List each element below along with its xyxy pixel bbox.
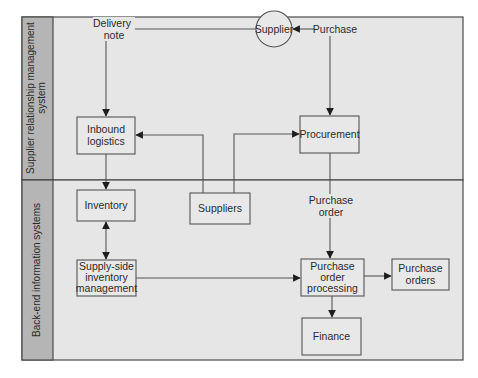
node-purchase-orders[interactable]: Purchase orders bbox=[392, 259, 449, 290]
node-inbound-logistics[interactable]: Inbound logistics bbox=[77, 117, 135, 154]
node-finance[interactable]: Finance bbox=[302, 318, 361, 355]
node-label-line2: logistics bbox=[87, 135, 124, 147]
purchase-order-label-line2: order bbox=[319, 206, 344, 218]
purchase-label: Purchase bbox=[313, 23, 358, 35]
lane-label-line1: Supplier relationship management bbox=[25, 22, 36, 174]
node-label: Suppliers bbox=[198, 202, 242, 214]
process-diagram: Supplier relationship management system … bbox=[0, 0, 478, 378]
delivery-note-label-line2: note bbox=[104, 29, 125, 41]
lane-background bbox=[22, 17, 463, 180]
node-label-line3: management bbox=[76, 282, 137, 294]
swimlane-supplier-relationship: Supplier relationship management system bbox=[22, 17, 463, 180]
lane-label: Back-end information systems bbox=[31, 203, 42, 337]
lane-label-line2: system bbox=[36, 82, 47, 114]
node-label-line1: Inbound bbox=[87, 123, 125, 135]
node-label: Procurement bbox=[299, 128, 359, 140]
delivery-note-label-line1: Delivery bbox=[93, 17, 132, 29]
node-purchase-order-processing[interactable]: Purchase order processing bbox=[301, 259, 364, 296]
purchase-order-label-line1: Purchase bbox=[309, 194, 354, 206]
node-procurement[interactable]: Procurement bbox=[299, 116, 359, 153]
node-label-line3: processing bbox=[307, 282, 358, 294]
node-label-line2: orders bbox=[406, 274, 436, 286]
node-label: Inventory bbox=[84, 199, 128, 211]
node-label: Finance bbox=[313, 330, 351, 342]
node-inventory[interactable]: Inventory bbox=[77, 190, 135, 221]
node-label: Supplier bbox=[255, 23, 294, 35]
node-suppliers[interactable]: Suppliers bbox=[190, 193, 250, 224]
node-supply-side-inventory-management[interactable]: Supply-side inventory management bbox=[76, 260, 137, 296]
node-label-line1: Purchase bbox=[398, 262, 443, 274]
